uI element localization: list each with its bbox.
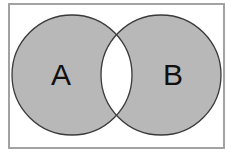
region-b-only xyxy=(0,0,233,157)
set-label-a: A xyxy=(51,58,71,91)
set-label-b: B xyxy=(163,58,183,91)
venn-diagram-figure: A B xyxy=(0,0,233,157)
venn-diagram-canvas: A B xyxy=(0,0,233,157)
